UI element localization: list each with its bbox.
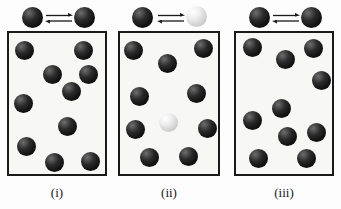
molecule-sphere-dark <box>312 71 331 90</box>
equilibrium-arrow-icon <box>272 13 300 23</box>
reaction-header-3 <box>0 0 341 26</box>
figure-root: (i)(ii)(iii) <box>0 0 341 209</box>
panel-iii: (iii) <box>0 0 341 209</box>
product-sphere-dark <box>301 7 322 28</box>
molecule-sphere-dark <box>243 38 262 57</box>
molecule-sphere-dark <box>243 111 262 130</box>
molecule-sphere-dark <box>276 50 295 69</box>
reactant-sphere-dark <box>249 7 270 28</box>
molecule-sphere-dark <box>278 127 297 146</box>
molecule-sphere-dark <box>297 149 316 168</box>
molecule-sphere-dark <box>307 123 326 142</box>
molecule-sphere-dark <box>272 99 291 118</box>
molecule-sphere-dark <box>249 149 268 168</box>
panel-caption-3: (iii) <box>234 185 334 201</box>
molecule-sphere-dark <box>304 39 323 58</box>
